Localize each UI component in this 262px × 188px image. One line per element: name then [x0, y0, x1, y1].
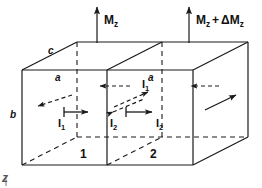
magnetization-label-right: Mz+ΔMz — [196, 14, 244, 30]
corner-axis-label: z — [2, 172, 8, 184]
current-arrows-cell-2 — [191, 86, 236, 110]
box-solid-edges — [22, 42, 248, 165]
top-right-diagonal-edge — [193, 42, 248, 70]
current-label-I1-mid: I1 — [142, 79, 149, 93]
dimension-label-c: c — [48, 46, 54, 56]
dimension-label-b: b — [10, 110, 16, 120]
current-label-I2-right: I2 — [156, 118, 163, 132]
magnetization-cells-diagram: Mz Mz+ΔMz c a a b I1 I1 I2 I2 1 2 z — [0, 0, 262, 188]
arrow-diagonal-icon-I1-mid — [114, 92, 148, 107]
cell-label-2: 2 — [150, 148, 157, 160]
magnetization-label-left: Mz — [104, 14, 118, 30]
current-label-I1-front: I1 — [58, 118, 65, 132]
arrow-diagonal-icon-right-cell — [205, 95, 236, 110]
current-label-I2-left: I2 — [110, 118, 117, 132]
box-hidden-edges — [22, 42, 248, 165]
arrow-diagonal-icon-back-left — [38, 95, 72, 106]
middle-divider-diagonal-edge — [107, 42, 162, 70]
bottom-right-diagonal-edge — [193, 137, 248, 165]
dimension-label-a-left: a — [55, 73, 61, 83]
current-arrows-cell-1 — [38, 95, 88, 117]
cell-label-1: 1 — [80, 148, 87, 160]
hidden-bottom-left-diagonal — [22, 137, 77, 165]
